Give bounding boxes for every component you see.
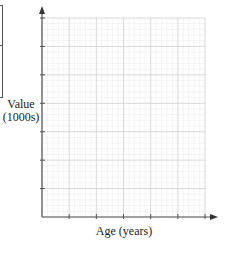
x-axis-label: Age (years) xyxy=(74,224,174,238)
y-axis-arrow-icon xyxy=(39,6,45,14)
chart-plot xyxy=(0,0,228,254)
y-axis-label-line2: (1000s) xyxy=(0,111,42,124)
x-axis-arrow-icon xyxy=(210,214,218,220)
major-grid xyxy=(42,18,205,217)
y-axis-label: Value (1000s) xyxy=(0,98,42,124)
axes xyxy=(39,6,218,220)
